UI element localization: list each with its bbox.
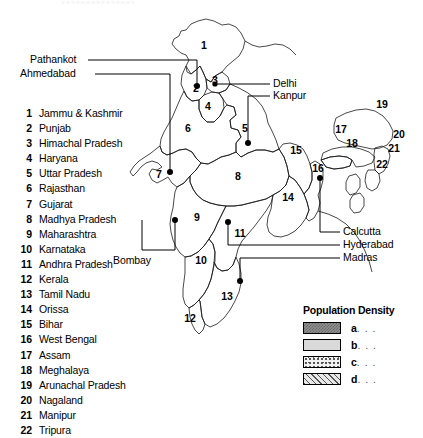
state-index-number: 20 (8, 393, 32, 408)
state-index-number: 14 (8, 302, 32, 317)
state-index-number: 11 (8, 257, 32, 272)
state-index-number: 2 (8, 121, 32, 136)
leader-madras (240, 258, 340, 281)
map-number-13: 13 (221, 290, 233, 302)
city-label-delhi: Delhi (273, 77, 296, 89)
list-item: 1 Jammu & Kashmir (8, 106, 168, 121)
state-index-number: 13 (8, 287, 32, 302)
list-item: 4 Haryana (8, 151, 168, 166)
map-number-20: 20 (393, 128, 405, 140)
state-index-number: 1 (8, 106, 32, 121)
state-region-5 (219, 84, 279, 157)
state-index-number: 15 (8, 317, 32, 332)
neighbour-outline (321, 160, 352, 169)
list-item: 7 Gujarat (8, 197, 168, 212)
state-index-number: 4 (8, 151, 32, 166)
state-index-number: 18 (8, 363, 32, 378)
north-context-line (245, 41, 296, 55)
state-index-name: Orissa (32, 302, 68, 317)
state-index-number: 21 (8, 408, 32, 423)
list-item: 14 Orissa (8, 302, 168, 317)
state-index-name: Andhra Pradesh (32, 257, 113, 272)
state-index-name: Manipur (32, 408, 76, 423)
city-label-hyderabad: Hyderabad (343, 238, 393, 250)
population-density-legend: Population Density a. . . b. . . c. . . … (303, 304, 419, 387)
legend-label-a: a. . . (351, 322, 376, 334)
legend-title: Population Density (303, 304, 419, 316)
list-item: 13 Tamil Nadu (8, 287, 168, 302)
map-number-1: 1 (201, 39, 207, 51)
state-index-name: Madhya Pradesh (32, 212, 116, 227)
legend-label-b: b. . . (351, 339, 377, 351)
state-index-name: West Bengal (32, 332, 97, 347)
state-index-name: Jammu & Kashmir (32, 106, 123, 121)
map-number-19: 19 (376, 98, 388, 110)
state-index-number: 16 (8, 332, 32, 347)
map-number-18: 18 (346, 137, 358, 149)
state-index-name: Assam (32, 348, 70, 363)
state-index-number: 17 (8, 348, 32, 363)
list-item: 5 Uttar Pradesh (8, 166, 168, 181)
city-label-madras: Madras (343, 251, 377, 263)
map-number-21: 21 (388, 142, 400, 154)
state-region-17 (321, 147, 375, 167)
city-label-calcutta: Calcutta (343, 225, 381, 237)
list-item: 10 Karnataka (8, 242, 168, 257)
legend-row-d: d. . . (303, 370, 419, 387)
list-item: 19 Arunachal Pradesh (8, 378, 168, 393)
list-item: 18 Meghalaya (8, 363, 168, 378)
state-index-name: Karnataka (32, 242, 86, 257)
map-number-9: 9 (194, 211, 200, 223)
state-index-name: Bihar (32, 317, 63, 332)
list-item: 20 Nagaland (8, 393, 168, 408)
map-number-8: 8 (235, 170, 241, 182)
map-number-16: 16 (312, 162, 324, 174)
state-index-list: 1 Jammu & Kashmir 2 Punjab 3 Himachal Pr… (8, 106, 168, 438)
legend-swatch-c (303, 356, 341, 368)
state-index-number: 5 (8, 166, 32, 181)
city-label-ahmedabad: Ahmedabad (20, 67, 76, 79)
list-item: 8 Madhya Pradesh (8, 212, 168, 227)
state-index-number: 10 (8, 242, 32, 257)
map-number-12: 12 (184, 312, 196, 324)
state-index-name: Uttar Pradesh (32, 166, 102, 181)
state-index-number: 3 (8, 136, 32, 151)
leader-pathankot (88, 60, 197, 86)
map-number-14: 14 (282, 191, 294, 203)
state-index-number: 8 (8, 212, 32, 227)
map-number-10: 10 (195, 254, 207, 266)
legend-row-a: a. . . (303, 319, 419, 336)
state-region-ne-strip (350, 193, 364, 213)
state-index-number: 9 (8, 227, 32, 242)
list-item: 9 Maharashtra (8, 227, 168, 242)
map-number-17: 17 (335, 123, 347, 135)
list-item: 12 Kerala (8, 272, 168, 287)
legend-swatch-b (303, 339, 341, 351)
state-index-name: Gujarat (32, 197, 72, 212)
state-index-name: Rajasthan (32, 181, 85, 196)
state-index-name: Tripura (32, 423, 71, 438)
map-number-15: 15 (290, 144, 302, 156)
map-number-11: 11 (234, 227, 245, 239)
state-index-number: 19 (8, 378, 32, 393)
state-region-13 (199, 257, 241, 327)
state-index-number: 22 (8, 423, 32, 438)
list-item: 21 Manipur (8, 408, 168, 423)
list-item: 22 Tripura (8, 423, 168, 438)
state-region-10 (183, 239, 215, 308)
list-item: 16 West Bengal (8, 332, 168, 347)
state-index-name: Tamil Nadu (32, 287, 90, 302)
leader-calcutta (320, 178, 340, 232)
state-index-name: Maharashtra (32, 227, 96, 242)
legend-row-c: c. . . (303, 353, 419, 370)
list-item: 15 Bihar (8, 317, 168, 332)
state-index-number: 12 (8, 272, 32, 287)
legend-swatch-a (303, 322, 341, 334)
state-region-21 (365, 170, 380, 191)
list-item: 6 Rajasthan (8, 181, 168, 196)
list-item: 17 Assam (8, 348, 168, 363)
map-number-6: 6 (185, 122, 191, 134)
city-label-pathankot: Pathankot (30, 53, 76, 65)
state-region-22 (346, 174, 360, 195)
list-item: 3 Himachal Pradesh (8, 136, 168, 151)
